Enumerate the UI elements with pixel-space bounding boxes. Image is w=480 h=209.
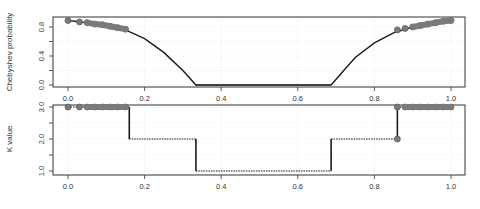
x-tick-label: 0.0 — [63, 182, 73, 191]
bottom-x-axis: 0.00.20.40.60.81.0 — [63, 175, 456, 191]
x-tick-label: 0.2 — [139, 182, 149, 191]
data-point — [402, 25, 408, 31]
data-point — [76, 104, 82, 110]
data-point — [394, 104, 400, 110]
x-tick-label: 0.2 — [139, 94, 149, 103]
data-point — [76, 19, 82, 25]
top-panel: 0.00.40.8 0.00.20.40.60.81.0 Chebyshev p… — [5, 13, 465, 103]
bottom-panel: 1.02.03.0 0.00.20.40.60.81.0 K value — [5, 102, 465, 191]
top-x-axis: 0.00.20.40.60.81.0 — [63, 87, 456, 103]
chart-figure: 0.00.40.8 0.00.20.40.60.81.0 Chebyshev p… — [0, 0, 480, 209]
y-tick-label: 1.0 — [37, 166, 46, 176]
bottom-plot-frame — [53, 105, 465, 175]
x-tick-label: 0.6 — [293, 94, 303, 103]
data-point — [394, 136, 400, 142]
top-y-axis-label: Chebyshev probability — [5, 13, 14, 92]
bottom-gridlines — [54, 106, 464, 174]
bottom-series — [65, 104, 454, 171]
y-tick-label: 0.4 — [37, 51, 46, 61]
x-tick-label: 0.6 — [293, 182, 303, 191]
x-tick-label: 1.0 — [446, 94, 456, 103]
data-point — [65, 17, 71, 23]
data-point — [394, 27, 400, 33]
x-tick-label: 0.0 — [63, 94, 73, 103]
y-tick-label: 0.8 — [37, 22, 46, 32]
x-tick-label: 0.4 — [216, 94, 226, 103]
data-point-band — [87, 23, 125, 30]
x-tick-label: 0.8 — [369, 182, 379, 191]
data-point — [65, 104, 71, 110]
x-tick-label: 0.4 — [216, 182, 226, 191]
x-tick-label: 0.8 — [369, 94, 379, 103]
top-series — [65, 17, 454, 85]
bottom-y-axis: 1.02.03.0 — [37, 102, 53, 176]
top-y-axis: 0.00.40.8 — [37, 22, 53, 90]
bottom-y-axis-label: K value — [5, 125, 14, 152]
data-point-band — [413, 20, 451, 27]
y-tick-label: 3.0 — [37, 102, 46, 112]
x-tick-label: 1.0 — [446, 182, 456, 191]
y-tick-label: 2.0 — [37, 134, 46, 144]
y-tick-label: 0.0 — [37, 80, 46, 90]
